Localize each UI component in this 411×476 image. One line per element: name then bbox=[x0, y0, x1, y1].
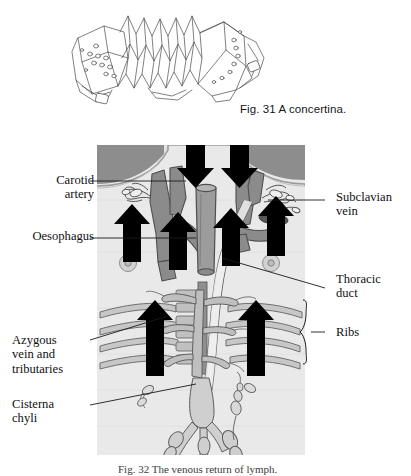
fig31-caption: Fig. 31 A concertina. bbox=[240, 103, 346, 115]
label-azygous-vein: Azygous vein and tributaries bbox=[12, 333, 94, 376]
label-oesophagus: Oesophagus bbox=[8, 229, 94, 243]
label-subclavian-vein: Subclavian vein bbox=[336, 190, 410, 219]
fig32-caption: Fig. 32 The venous return of lymph. bbox=[118, 463, 277, 475]
label-cisterna-chyli: Cisterna chyli bbox=[12, 397, 94, 426]
concertina-illustration bbox=[52, 2, 272, 112]
label-thoracic-duct: Thoracic duct bbox=[336, 272, 410, 301]
label-carotid-artery: Carotid artery bbox=[8, 173, 94, 202]
label-ribs: Ribs bbox=[336, 325, 410, 339]
figure-page: Fig. 31 A concertina. bbox=[0, 0, 411, 476]
